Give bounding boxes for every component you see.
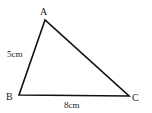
- triangle-abc: [19, 20, 129, 96]
- vertex-label-a: A: [40, 6, 48, 17]
- side-ab-length-label: 5cm: [7, 49, 23, 59]
- vertex-label-c: C: [132, 92, 139, 103]
- triangle-diagram: A B C 5cm 8cm: [0, 0, 152, 113]
- vertex-label-b: B: [6, 91, 13, 102]
- side-bc-length-label: 8cm: [64, 100, 80, 110]
